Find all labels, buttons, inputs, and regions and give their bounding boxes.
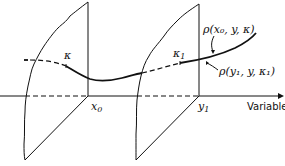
curve-right xyxy=(180,33,256,63)
diagram: κ κ1 ρ(x₀, y, κ) ρ(y₁, y, κ₁) x0 y1 Vari… xyxy=(0,0,285,166)
kappa-label: κ xyxy=(63,49,72,62)
plane-x0 xyxy=(24,2,88,160)
x0-label: x0 xyxy=(91,100,102,114)
kappa1-label: κ1 xyxy=(172,47,185,61)
curve-hidden-right xyxy=(142,63,180,73)
plane-y1 xyxy=(136,4,199,160)
y1-label: y1 xyxy=(197,100,209,114)
plane-edge xyxy=(136,4,199,160)
upper-pointer-arrow xyxy=(212,36,214,52)
upper-curve-label: ρ(x₀, y, κ) xyxy=(202,23,255,36)
lower-pointer-arrowhead xyxy=(206,61,209,65)
axis-arrowhead xyxy=(278,93,284,99)
curve-between-planes xyxy=(66,66,142,81)
lower-pointer-arrow xyxy=(207,63,218,70)
plane-torn-edge xyxy=(136,4,199,160)
upper-pointer-arrowhead xyxy=(211,50,215,54)
plane-edge xyxy=(25,2,88,160)
lower-curve-label: ρ(y₁, y, κ₁) xyxy=(218,65,275,78)
axis-label: Variable xyxy=(247,101,285,112)
plane-torn-edge xyxy=(24,2,88,160)
